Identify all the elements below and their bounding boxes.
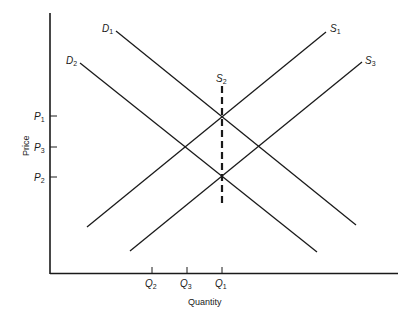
label-d1: D1 bbox=[102, 23, 113, 35]
label-q3: Q3 bbox=[180, 278, 192, 290]
demand-curve-d2 bbox=[80, 63, 317, 252]
demand-curve-d1 bbox=[116, 31, 356, 225]
label-p3: P3 bbox=[34, 142, 45, 154]
x-axis-title: Quantity bbox=[188, 297, 222, 307]
label-q2: Q2 bbox=[145, 278, 157, 290]
y-axis-title: Price bbox=[21, 135, 31, 156]
label-p1: P1 bbox=[34, 111, 45, 123]
supply-curve-s3 bbox=[130, 62, 362, 251]
label-s3: S3 bbox=[365, 55, 376, 67]
label-s1: S1 bbox=[330, 23, 341, 35]
label-p2: P2 bbox=[34, 172, 45, 184]
supply-curve-s1 bbox=[87, 32, 326, 227]
label-d2: D2 bbox=[66, 55, 77, 67]
label-q1: Q1 bbox=[215, 278, 227, 290]
label-s2: S2 bbox=[216, 73, 227, 85]
supply-demand-diagram: D1 D2 S1 S3 S2 P1 P3 P2 Q2 Q3 Q1 Quantit… bbox=[0, 0, 419, 317]
